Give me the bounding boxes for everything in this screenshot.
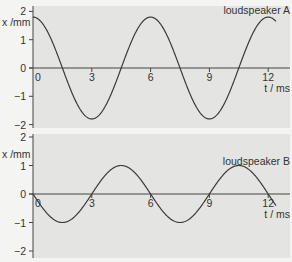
x-tick-label: 0 [35,71,41,83]
x-axis-label: t / ms [264,82,290,94]
y-tick-label: −2 [14,119,26,131]
y-tick-label: −2 [14,245,26,257]
series-label: loudspeaker A [223,4,290,16]
x-tick-label: 6 [148,197,154,209]
y-tick-label: 0 [20,188,26,200]
y-tick-label: 1 [20,34,26,46]
y-axis-label: x /mm [2,148,31,160]
series-label: loudspeaker B [223,155,290,167]
x-tick-label: 6 [148,71,154,83]
y-tick-label: −1 [14,217,26,229]
y-tick-label: 0 [20,62,26,74]
y-tick-label: 1 [20,160,26,172]
y-axis-label: x /mm [2,16,31,28]
x-tick-label: 3 [89,197,95,209]
x-tick-label: 3 [89,71,95,83]
plot-area [33,6,290,128]
y-tick-label: 2 [20,131,26,143]
chart-loudspeaker-b: 210−1−2036912t / msx /mmloudspeaker B [2,131,290,258]
plot-area [33,134,290,258]
chart-loudspeaker-a: 210−1−2036912t / msx /mmloudspeaker A [2,4,290,131]
x-axis-label: t / ms [264,208,290,220]
x-tick-label: 9 [206,71,212,83]
y-tick-label: −1 [14,90,26,102]
chart-canvas: 210−1−2036912t / msx /mmloudspeaker A 21… [0,0,292,262]
x-tick-label: 9 [206,197,212,209]
